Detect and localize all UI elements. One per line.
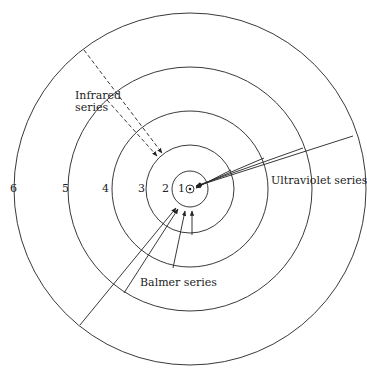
balmer-series-label: Balmer series bbox=[140, 277, 217, 289]
level-label-1: 1 bbox=[178, 183, 185, 195]
balmer-transition-arrow-3 bbox=[173, 211, 185, 268]
level-label-4: 4 bbox=[102, 183, 109, 195]
bohr-model-diagram: 654321 Infrared series Ultraviolet serie… bbox=[0, 0, 367, 378]
ultraviolet-series-label: Ultraviolet series bbox=[271, 175, 367, 187]
level-label-6: 6 bbox=[10, 183, 17, 195]
level-label-2: 2 bbox=[162, 183, 169, 195]
level-label-5: 5 bbox=[62, 183, 69, 195]
nucleus-dot bbox=[189, 188, 192, 191]
infrared-label-line2: series bbox=[75, 102, 121, 114]
ultraviolet-transition-arrow-4 bbox=[196, 170, 231, 188]
infrared-series-label: Infrared series bbox=[75, 90, 121, 114]
level-label-3: 3 bbox=[138, 183, 145, 195]
